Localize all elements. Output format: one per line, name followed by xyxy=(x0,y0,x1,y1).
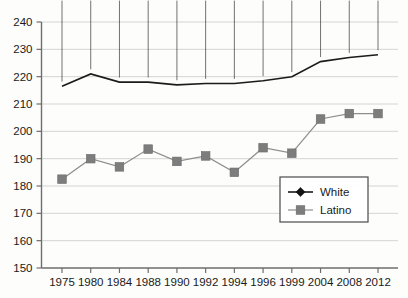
data-point-latino xyxy=(173,157,182,166)
series-markers-latino xyxy=(58,109,383,183)
x-axis-tick-label: 1988 xyxy=(135,276,161,288)
y-axis-tick-label: 240 xyxy=(13,16,32,28)
x-axis-tick-label: 1975 xyxy=(49,276,75,288)
line-chart: 150160170180190200210220230240 197519801… xyxy=(0,0,408,298)
data-point-latino xyxy=(144,145,153,154)
data-point-latino xyxy=(230,168,239,177)
data-point-latino xyxy=(115,163,124,172)
y-axis-tick-label: 200 xyxy=(13,125,32,137)
legend-label: White xyxy=(320,186,349,198)
legend-item-latino[interactable]: Latino xyxy=(288,204,351,216)
x-axis-tick-label: 1992 xyxy=(193,276,219,288)
x-axis-tick-label: 2004 xyxy=(308,276,334,288)
series-line-latino xyxy=(62,114,378,180)
y-axis-tick-label: 230 xyxy=(13,43,32,55)
x-axis-ticks xyxy=(62,268,378,273)
y-axis-tick-label: 160 xyxy=(13,235,32,247)
data-point-latino xyxy=(288,149,297,158)
x-axis-tick-label: 2008 xyxy=(336,276,362,288)
x-axis-tick-label: 2012 xyxy=(365,276,391,288)
y-axis-tick-label: 180 xyxy=(13,180,32,192)
x-axis-tick-label: 1980 xyxy=(78,276,104,288)
x-axis-tick-label: 1996 xyxy=(250,276,276,288)
x-axis-labels: 1975198019841988199019921994199619992004… xyxy=(49,276,391,288)
data-point-latino xyxy=(374,109,383,118)
data-point-latino xyxy=(345,109,354,118)
x-axis-tick-label: 1990 xyxy=(164,276,190,288)
x-axis-tick-label: 1994 xyxy=(222,276,248,288)
x-axis-tick-label: 1999 xyxy=(279,276,305,288)
data-point-latino xyxy=(58,175,67,184)
x-axis-tick-label: 1984 xyxy=(107,276,133,288)
data-point-latino xyxy=(259,143,268,152)
chart-page: 150160170180190200210220230240 197519801… xyxy=(0,0,408,298)
y-axis-tick-label: 210 xyxy=(13,98,32,110)
y-axis-ticks xyxy=(37,22,42,268)
series-markers-white xyxy=(62,1,378,82)
legend-marker-square-icon xyxy=(296,206,305,215)
legend-label: Latino xyxy=(320,204,351,216)
y-axis-tick-label: 220 xyxy=(13,71,32,83)
series-line-white xyxy=(62,55,378,86)
y-axis-tick-label: 150 xyxy=(13,262,32,274)
y-axis-tick-label: 170 xyxy=(13,207,32,219)
chart-legend: WhiteLatino xyxy=(280,177,368,222)
data-point-latino xyxy=(316,115,325,124)
data-point-latino xyxy=(201,152,210,161)
y-axis-labels: 150160170180190200210220230240 xyxy=(13,16,32,274)
y-axis-tick-label: 190 xyxy=(13,153,32,165)
data-point-latino xyxy=(86,154,95,163)
